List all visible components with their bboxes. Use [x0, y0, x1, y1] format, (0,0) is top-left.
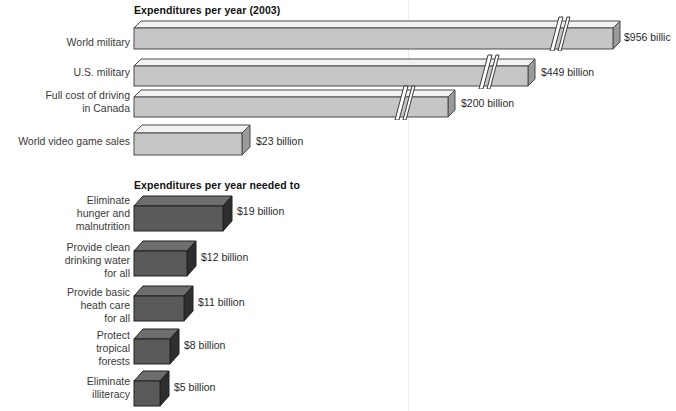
- bar-world-video-game-sales: [134, 124, 250, 156]
- bar-eliminate-illiteracy: [134, 370, 169, 407]
- bar-shape-eliminate-illiteracy: [134, 370, 169, 407]
- category-label-clean-water: Provide clean drinking water for all: [0, 241, 130, 281]
- bar-protect-tropical-forests: [134, 328, 179, 365]
- section-title-expenditures: Expenditures per year (2003): [134, 4, 280, 16]
- category-label-us-military: U.S. military: [0, 66, 130, 79]
- value-label-eliminate-illiteracy: $5 billion: [174, 381, 215, 393]
- bar-shape-protect-tropical-forests: [134, 328, 179, 365]
- category-label-basic-health-care: Provide basic heath care for all: [0, 286, 130, 326]
- value-label-world-military: $956 billic: [624, 31, 671, 43]
- bar-clean-water: [134, 240, 196, 277]
- category-label-eliminate-hunger: Eliminate hunger and malnutrition: [0, 194, 130, 234]
- category-label-full-cost-driving-canada: Full cost of driving in Canada: [0, 89, 130, 115]
- value-label-basic-health-care: $11 billion: [198, 296, 245, 308]
- axis-break-full-cost-driving-canada: [382, 81, 416, 120]
- bar-shape-clean-water: [134, 240, 196, 277]
- axis-break-us-military: [466, 50, 500, 89]
- category-label-protect-tropical-forests: Protect tropical forests: [0, 329, 130, 369]
- axis-break-world-military: [537, 11, 571, 51]
- bar-shape-world-video-game-sales: [134, 124, 250, 156]
- value-label-full-cost-driving-canada: $200 billion: [461, 97, 514, 109]
- category-label-world-video-game-sales: World video game sales: [0, 135, 130, 148]
- value-label-clean-water: $12 billion: [201, 251, 248, 263]
- value-label-eliminate-hunger: $19 billion: [237, 205, 284, 217]
- section-title-needed: Expenditures per year needed to: [134, 179, 300, 191]
- value-label-protect-tropical-forests: $8 billion: [184, 339, 225, 351]
- bar-shape-eliminate-hunger: [134, 195, 232, 232]
- bar-basic-health-care: [134, 285, 193, 322]
- category-label-eliminate-illiteracy: Eliminate illiteracy: [0, 375, 130, 401]
- bar-eliminate-hunger: [134, 195, 232, 232]
- chart-figure: Expenditures per year (2003) World milit…: [0, 0, 676, 411]
- value-label-world-video-game-sales: $23 billion: [256, 135, 303, 147]
- category-label-world-military: World military: [0, 36, 130, 49]
- bar-shape-basic-health-care: [134, 285, 193, 322]
- value-label-us-military: $449 billion: [541, 66, 594, 78]
